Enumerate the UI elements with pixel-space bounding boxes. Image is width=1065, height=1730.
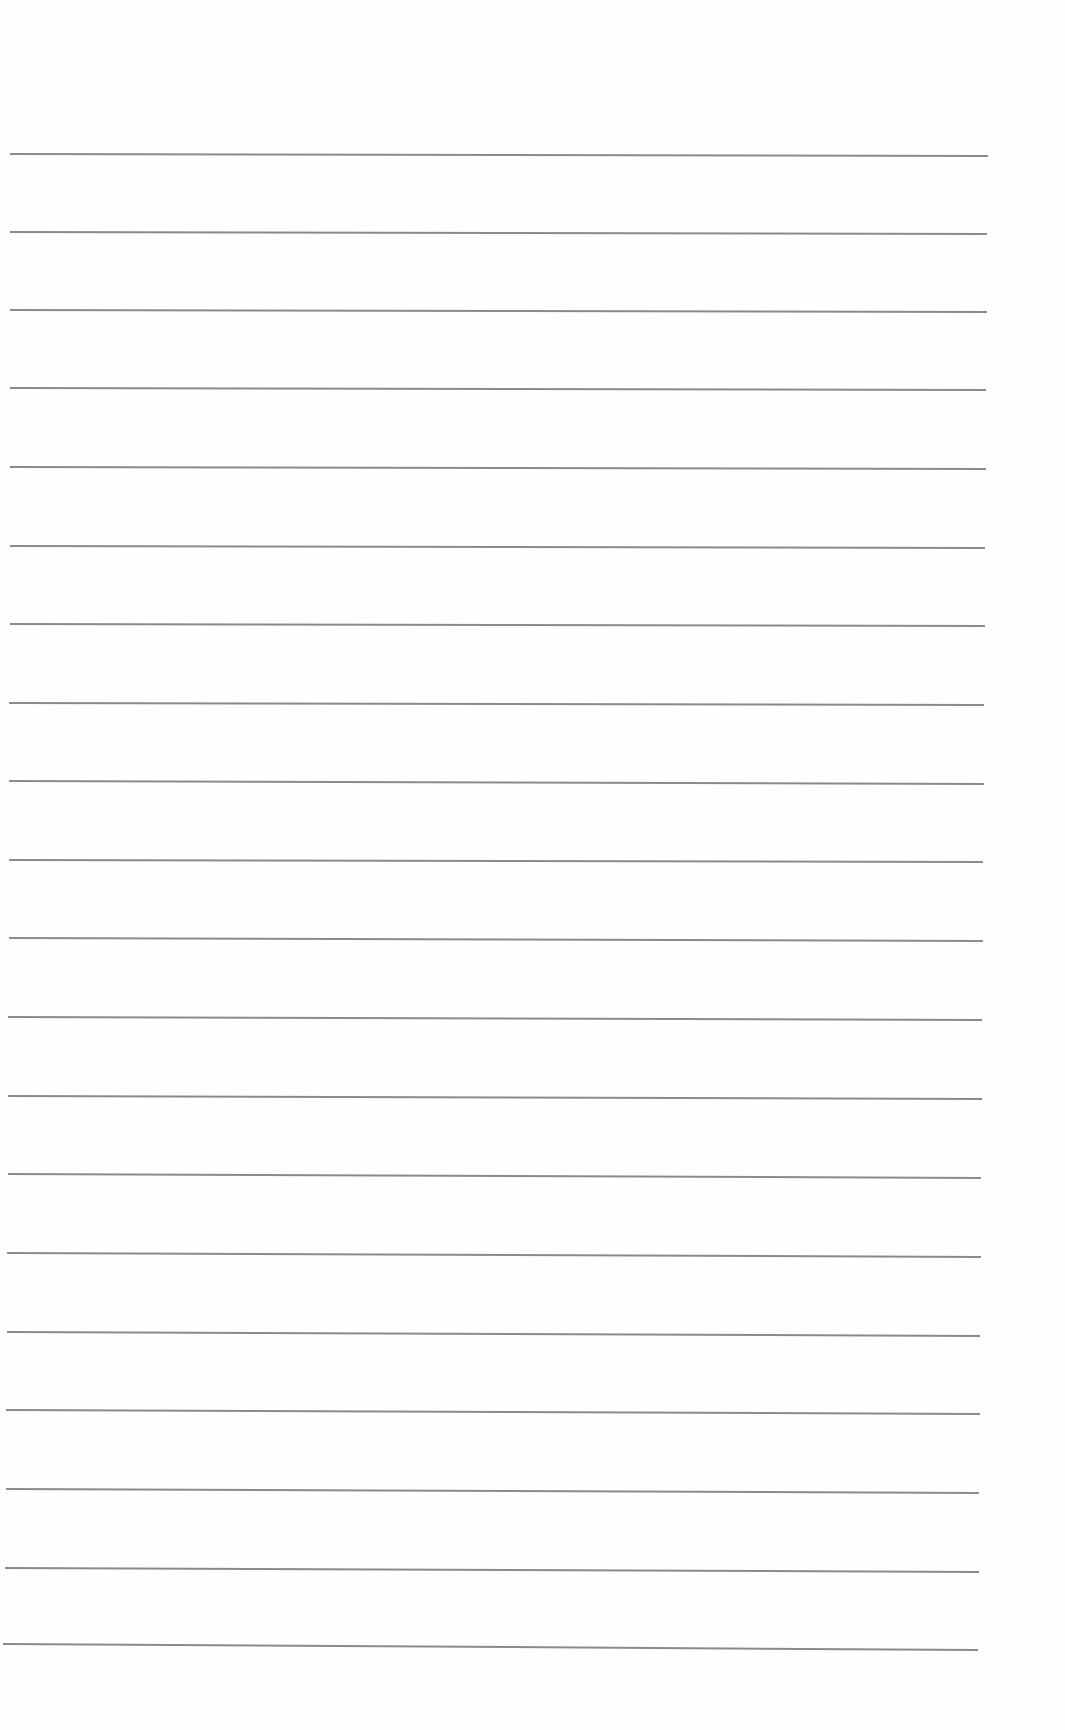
ruled-line	[6, 1488, 979, 1494]
ruled-line	[7, 1331, 980, 1337]
ruled-line	[6, 1409, 980, 1415]
ruled-line	[10, 153, 988, 157]
ruled-line	[7, 1252, 981, 1258]
ruled-line	[3, 1643, 978, 1651]
ruled-line	[10, 466, 986, 470]
bleed-through-mark: ·	[1040, 1101, 1048, 1111]
ruled-line	[9, 780, 984, 785]
ruled-line	[5, 1567, 979, 1573]
ruled-line	[9, 702, 984, 706]
lined-page: ·····	[0, 0, 1065, 1730]
ruled-line	[9, 859, 983, 863]
ruled-line	[10, 231, 987, 235]
ruled-line	[10, 387, 986, 391]
ruled-line	[9, 937, 983, 942]
bleed-through-mark: ·	[1040, 866, 1048, 876]
bleed-through-mark: ·	[1040, 944, 1048, 954]
ruled-line	[8, 1173, 981, 1179]
bleed-through-mark: ·	[1045, 1022, 1053, 1032]
ruled-line	[10, 623, 985, 627]
ruled-line	[10, 309, 987, 313]
bleed-through-mark: ·	[1040, 1180, 1048, 1190]
ruled-line	[10, 545, 985, 549]
ruled-line	[8, 1095, 982, 1100]
ruled-line	[8, 1016, 982, 1021]
